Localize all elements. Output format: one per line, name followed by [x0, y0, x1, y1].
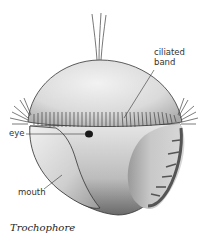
label-ciliated-band: ciliated band — [154, 47, 185, 67]
label-mouth: mouth — [18, 187, 46, 197]
label-eye: eye — [9, 128, 25, 138]
figure-caption: Trochophore — [10, 222, 75, 233]
label-ciliated-band-line2: band — [154, 57, 185, 67]
eye-spot — [85, 131, 93, 138]
trochophore-diagram — [0, 0, 207, 238]
label-ciliated-band-line1: ciliated — [154, 47, 185, 57]
apical-tuft — [92, 13, 106, 60]
